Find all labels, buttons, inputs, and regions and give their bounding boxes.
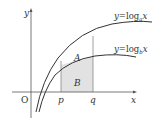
- curve-a-label: y=logax: [113, 11, 148, 22]
- y-axis-label: y: [23, 8, 30, 18]
- point-p-label: p: [58, 95, 64, 105]
- log-area-diagram: y x O p q A B y=logax y=logbx: [0, 0, 163, 127]
- curve-b-label: y=logbx: [113, 44, 148, 55]
- region-b-label: B: [73, 78, 81, 88]
- x-axis-arrow: [133, 91, 137, 94]
- x-axis-label: x: [131, 95, 136, 105]
- y-axis-arrow: [30, 8, 33, 12]
- point-q-label: q: [90, 95, 96, 105]
- region-a-label: A: [73, 53, 81, 63]
- origin-label: O: [21, 95, 28, 105]
